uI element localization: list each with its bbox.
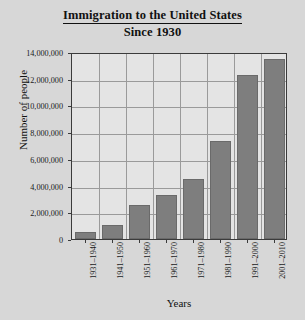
bar (75, 232, 96, 239)
x-axis-tick-label: 1981–1990 (224, 242, 233, 279)
y-axis-tick-label: 2,000,000 (30, 209, 63, 218)
x-axis-tick-label: 1971–1980 (197, 242, 206, 279)
y-axis-tick-label: 10,000,000 (26, 102, 63, 111)
x-axis-tick-mark (220, 240, 221, 243)
x-axis-tick-mark (247, 240, 248, 243)
x-axis-tick-mark (193, 240, 194, 243)
x-axis-tick-mark (112, 240, 113, 243)
y-axis-tick-label: 12,000,000 (26, 75, 63, 84)
chart-figure: Immigration to the United States Since 1… (0, 0, 305, 320)
y-axis-tick-mark (68, 240, 71, 241)
x-axis-tick-labels: 1931–19401941–19501951–19601961–19701971… (71, 242, 287, 294)
x-axis-tick-label: 1941–1950 (116, 242, 125, 279)
x-axis-tick-label: 1991–2000 (251, 242, 260, 279)
plot-area (71, 53, 287, 240)
x-axis-tick-mark (85, 240, 86, 243)
y-axis-tick-label: 14,000,000 (26, 49, 63, 58)
y-axis-tick-mark (68, 160, 71, 161)
y-axis-tick-mark (68, 213, 71, 214)
x-axis-tick-mark (166, 240, 167, 243)
x-axis-tick-label: 1951–1960 (143, 242, 152, 279)
y-axis-title: Number of people (17, 40, 29, 180)
x-axis-tick-mark (274, 240, 275, 243)
x-axis-title: Years (71, 297, 287, 309)
y-axis-tick-label: 6,000,000 (30, 155, 63, 164)
y-axis-tick-mark (68, 133, 71, 134)
x-axis-tick-label: 1961–1970 (170, 242, 179, 279)
bar (102, 225, 123, 239)
y-axis-tick-mark (68, 53, 71, 54)
bar (156, 195, 177, 239)
y-axis-tick-label: 0 (59, 236, 63, 245)
bar (237, 75, 258, 239)
bars-layer (72, 54, 286, 239)
bar (210, 141, 231, 239)
y-axis-tick-mark (68, 187, 71, 188)
y-axis-tick-label: 8,000,000 (30, 129, 63, 138)
y-axis-tick-mark (68, 106, 71, 107)
y-axis-tick-label: 4,000,000 (30, 182, 63, 191)
x-axis-tick-mark (139, 240, 140, 243)
bar (264, 59, 285, 239)
y-axis-tick-mark (68, 80, 71, 81)
bar (129, 205, 150, 239)
y-axis-tick-labels: 02,000,0004,000,0006,000,0008,000,00010,… (0, 0, 68, 320)
chart-title-line-1: Immigration to the United States (63, 8, 242, 24)
x-axis-tick-label: 2001–2010 (278, 242, 287, 279)
x-axis-tick-label: 1931–1940 (89, 242, 98, 279)
bar (183, 179, 204, 239)
